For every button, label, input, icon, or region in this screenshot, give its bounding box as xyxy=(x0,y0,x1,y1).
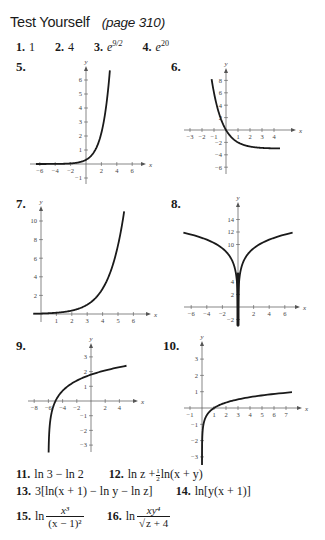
x-tick-label: 4 xyxy=(118,404,122,411)
y-tick-label: 4 xyxy=(231,278,235,285)
y-tick-label: 4 xyxy=(79,104,83,111)
x-tick-label: −4 xyxy=(59,404,67,411)
x-tick-label: −8 xyxy=(31,404,38,411)
x-tick-label: 1 xyxy=(55,317,58,324)
y-axis-label: y xyxy=(39,198,44,206)
graph-5: xy−6−4−2246−1123456 xyxy=(30,58,153,184)
graph-10: xy−11234567−3−2−1123 xyxy=(184,333,309,465)
x-axis-label: x xyxy=(302,304,307,312)
answer-14: 14.ln[y(x + 1)] xyxy=(176,484,251,499)
function-curve xyxy=(202,392,292,465)
x-tick-label: 3 xyxy=(260,133,263,140)
y-tick-label: −1 xyxy=(80,412,87,419)
x-axis-label: x xyxy=(153,311,158,319)
x-tick-label: 1 xyxy=(212,411,215,418)
x-tick-label: −2 xyxy=(73,404,80,411)
y-tick-label: 12 xyxy=(228,228,235,235)
answers-row-13-14: 13.3[ln(x + 1) − ln y − ln z] 14.ln[y(x … xyxy=(16,484,268,499)
x-tick-label: −2 xyxy=(219,310,226,317)
y-tick-label: 14 xyxy=(228,216,235,223)
x-tick-label: 2 xyxy=(70,317,73,324)
x-tick-label: −4 xyxy=(203,310,211,317)
y-tick-label: −2 xyxy=(80,427,87,434)
y-tick-label: 6 xyxy=(219,89,223,96)
x-axis-arrow-icon xyxy=(133,399,138,403)
function-curve xyxy=(36,70,110,164)
graph-7: xy123456246810 xyxy=(31,198,159,324)
answer-12: 12.ln z +12ln(x + y) xyxy=(109,467,203,483)
y-tick-label: 2 xyxy=(34,292,37,299)
y-tick-label: 8 xyxy=(219,77,222,84)
function-curve xyxy=(33,211,124,313)
x-tick-label: 4 xyxy=(101,317,105,324)
answer-16: 16.lnxy⁴√z + 4 xyxy=(107,504,170,530)
answer-11: 11.ln 3 − ln 2 xyxy=(16,467,84,482)
x-tick-label: 2 xyxy=(252,310,255,317)
graph-6: xy−3−2−11234−6−4−22468 xyxy=(184,60,303,174)
y-tick-label: −6 xyxy=(215,164,223,171)
y-tick-label: −2 xyxy=(215,139,222,146)
x-tick-label: 2 xyxy=(100,167,103,174)
y-axis-label: y xyxy=(89,335,94,343)
x-tick-label: 4 xyxy=(115,167,119,174)
y-axis-label: y xyxy=(236,194,241,202)
x-tick-label: −4 xyxy=(52,167,60,174)
x-axis-arrow-icon xyxy=(291,128,296,132)
y-axis-arrow-icon xyxy=(89,343,93,348)
y-tick-label: 5 xyxy=(79,90,82,97)
x-tick-label: −3 xyxy=(187,133,194,140)
x-tick-label: 3 xyxy=(236,411,239,418)
x-axis-label: x xyxy=(148,161,153,169)
y-axis-label: y xyxy=(224,60,229,68)
y-axis-label: y xyxy=(200,333,205,341)
y-axis-arrow-icon xyxy=(200,341,204,346)
y-tick-label: 3 xyxy=(84,353,87,360)
x-tick-label: 1 xyxy=(236,133,239,140)
x-tick-label: 4 xyxy=(272,133,276,140)
fraction-15: x³(x − 1)² xyxy=(46,504,83,530)
y-axis-arrow-icon xyxy=(224,68,228,73)
y-tick-label: −2 xyxy=(191,437,198,444)
answer-15: 15.lnx³(x − 1)² xyxy=(16,504,84,530)
y-tick-label: 4 xyxy=(34,273,38,280)
x-tick-label: 7 xyxy=(284,411,288,418)
y-tick-label: 1 xyxy=(79,146,82,153)
answers-row-15-16: 15.lnx³(x − 1)² 16.lnxy⁴√z + 4 xyxy=(16,504,187,530)
x-axis-label: x xyxy=(140,398,145,406)
x-tick-label: 6 xyxy=(283,310,287,317)
fraction-one-half: 12 xyxy=(156,468,160,483)
x-tick-label: 4 xyxy=(248,411,252,418)
x-tick-label: −6 xyxy=(36,167,44,174)
x-tick-label: −6 xyxy=(188,310,196,317)
y-tick-label: 1 xyxy=(195,388,198,395)
x-tick-label: −2 xyxy=(199,133,206,140)
y-tick-label: 2 xyxy=(195,372,198,379)
y-tick-label: −3 xyxy=(80,441,87,448)
y-tick-label: 2 xyxy=(84,368,87,375)
x-tick-label: 3 xyxy=(86,317,89,324)
y-axis-arrow-icon xyxy=(84,66,88,71)
y-tick-label: 2 xyxy=(231,291,234,298)
x-tick-label: 2 xyxy=(224,411,227,418)
graphs-canvas: xy−6−4−2246−1123456xy−3−2−11234−6−4−2246… xyxy=(0,0,325,540)
x-tick-label: 6 xyxy=(132,317,136,324)
y-tick-label: −4 xyxy=(215,151,223,158)
answers-row-11-12: 11.ln 3 − ln 2 12.ln z +12ln(x + y) xyxy=(16,467,220,483)
fraction-16: xy⁴√z + 4 xyxy=(137,504,170,530)
x-axis-arrow-icon xyxy=(297,406,302,410)
y-tick-label: 2 xyxy=(79,132,82,139)
x-axis-label: x xyxy=(304,405,309,413)
y-tick-label: 3 xyxy=(195,355,198,362)
y-tick-label: −2 xyxy=(227,316,234,323)
x-tick-label: 5 xyxy=(260,411,263,418)
sqrt-radicand: z + 4 xyxy=(145,516,168,529)
y-tick-label: 10 xyxy=(31,217,38,224)
y-tick-label: 10 xyxy=(228,241,235,248)
x-axis-arrow-icon xyxy=(141,162,146,166)
x-axis-arrow-icon xyxy=(146,312,151,316)
x-tick-label: −1 xyxy=(187,411,194,418)
graph-8: xy−6−4−2246−224101214 xyxy=(183,194,307,326)
y-tick-label: 6 xyxy=(34,255,38,262)
y-tick-label: −1 xyxy=(191,421,198,428)
y-tick-label: 3 xyxy=(79,118,82,125)
